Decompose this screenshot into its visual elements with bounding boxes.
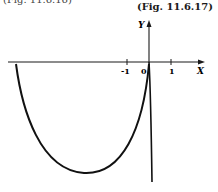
x-tick-label-minus-1: -1 — [121, 66, 130, 76]
x-tick-label-1: 1 — [169, 66, 175, 76]
curve-main — [16, 64, 149, 173]
plot-area: -1 0 1 X Y — [0, 0, 218, 192]
curve-branch — [149, 62, 152, 182]
y-axis-arrow-icon — [147, 20, 152, 27]
y-axis-label: Y — [138, 20, 146, 30]
x-axis-label: X — [196, 66, 205, 76]
x-axis-arrow-icon — [198, 60, 205, 65]
x-tick-label-0: 0 — [141, 66, 147, 76]
